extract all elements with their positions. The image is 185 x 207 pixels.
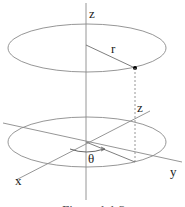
x-axis-label: x [15, 173, 22, 188]
radius-label: r [111, 41, 116, 56]
x-axis [16, 111, 150, 180]
theta-label: θ [88, 151, 94, 166]
cylindrical-coordinates-diagram: z r z x y θ Figure 1.1.3 [0, 0, 185, 207]
z-height-label: z [137, 100, 143, 115]
z-axis-label: z [89, 6, 95, 21]
y-axis-label: y [170, 164, 177, 179]
figure-caption: Figure 1.1.3 [62, 202, 125, 207]
top-circle [8, 24, 166, 72]
